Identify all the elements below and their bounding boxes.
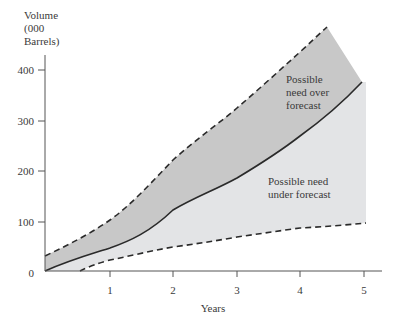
annotation-under-line-2: under forecast: [268, 188, 331, 200]
y-tick-label-0: 0: [29, 267, 35, 279]
x-tick-label-1: 1: [107, 284, 113, 296]
annotation-over-line-1: Possible: [286, 73, 323, 85]
y-tick-label-400: 400: [18, 64, 35, 76]
y-axis-title-line-3: Barrels): [24, 35, 60, 48]
annotation-over-line-2: need over: [286, 86, 329, 98]
y-ticks: [38, 70, 45, 222]
y-axis-title-line-1: Volume: [24, 9, 58, 21]
x-ticks: [110, 271, 364, 277]
x-tick-label-4: 4: [297, 284, 303, 296]
annotation-over-line-3: forecast: [286, 99, 321, 111]
y-tick-label-100: 100: [18, 216, 35, 228]
x-axis-title: Years: [201, 302, 226, 314]
annotation-under-line-1: Possible need: [268, 175, 329, 187]
chart: 400 300 200 100 0 1 2 3 4 5 Years Volume…: [0, 0, 395, 325]
y-axis-title-line-2: (000: [24, 22, 45, 35]
x-tick-label-3: 3: [234, 284, 240, 296]
x-tick-label-5: 5: [361, 284, 367, 296]
y-tick-label-200: 200: [18, 165, 35, 177]
x-tick-label-2: 2: [170, 284, 176, 296]
y-tick-label-300: 300: [18, 115, 35, 127]
